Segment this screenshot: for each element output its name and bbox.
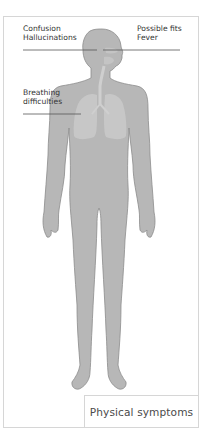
human-body-figure-icon (0, 0, 212, 439)
label-difficulties: difficulties (23, 97, 62, 106)
label-chest-left: Breathing difficulties (23, 88, 62, 107)
label-confusion: Confusion (23, 24, 77, 33)
label-hallucinations: Hallucinations (23, 33, 77, 42)
label-head-right: Possible fits Fever (137, 24, 182, 43)
label-breathing: Breathing (23, 88, 62, 97)
label-possible-fits: Possible fits (137, 24, 182, 33)
label-head-left: Confusion Hallucinations (23, 24, 77, 43)
caption-box: Physical symptoms (84, 395, 198, 427)
caption-text: Physical symptoms (90, 406, 193, 418)
label-fever: Fever (137, 33, 182, 42)
